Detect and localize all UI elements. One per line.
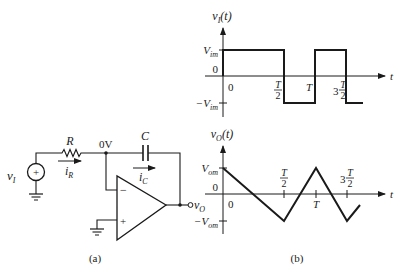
svg-text:2: 2 <box>348 178 353 189</box>
svg-text:T: T <box>281 167 288 178</box>
y-tick-pos: Vom <box>201 162 218 177</box>
svg-text:3: 3 <box>340 173 346 185</box>
capacitor <box>143 145 148 161</box>
svg-text:2: 2 <box>276 90 281 101</box>
y-tick-neg: −Vom <box>194 215 218 230</box>
resistor-label: R <box>65 134 74 148</box>
ground-icon <box>90 229 104 235</box>
x-tick-zero: 0 <box>228 198 234 210</box>
opamp-minus-sign: − <box>120 183 127 197</box>
integrator-circuit: + vI R iR 0V C iC <box>7 129 205 265</box>
x-axis-label: t <box>390 188 394 200</box>
y-tick-pos: Vim <box>203 44 218 59</box>
node-voltage-label: 0V <box>99 138 113 150</box>
current-r-label: iR <box>65 164 73 180</box>
caption-a: (a) <box>89 252 102 265</box>
y-tick-zero: 0 <box>213 181 219 193</box>
output-label: vO <box>194 198 205 214</box>
x-tick-zero: 0 <box>228 81 234 93</box>
capacitor-label: C <box>141 129 150 143</box>
x-axis-label: t <box>390 70 394 82</box>
voltage-source: + <box>28 164 45 181</box>
svg-text:T: T <box>275 79 282 90</box>
x-tick-T: T <box>306 81 313 93</box>
svg-text:3: 3 <box>333 85 339 97</box>
resistor <box>60 150 106 157</box>
x-tick-T: T <box>313 198 320 210</box>
output-node <box>178 203 182 207</box>
svg-text:T: T <box>347 167 354 178</box>
x-tick-half: T 2 <box>280 167 288 189</box>
svg-text:2: 2 <box>341 90 346 101</box>
ground-icon <box>29 194 43 200</box>
figure: + vI R iR 0V C iC <box>0 0 398 274</box>
output-y-label: vO(t) <box>211 127 233 143</box>
input-y-label: vI(t) <box>212 9 231 25</box>
input-waveform-plot: vI(t) t Vim 0 −Vim 0 T 2 T 3 T 2 <box>196 9 394 117</box>
source-plus-sign: + <box>33 166 39 178</box>
x-tick-three-half: 3 T 2 <box>333 79 347 101</box>
caption-b: (b) <box>291 252 304 265</box>
current-c-label: iC <box>139 170 148 186</box>
y-tick-neg: −Vim <box>196 97 218 112</box>
x-tick-three-half: 3 T 2 <box>340 167 354 189</box>
svg-text:2: 2 <box>282 178 287 189</box>
opamp-plus-sign: + <box>120 215 126 227</box>
source-label: vI <box>7 168 16 185</box>
output-terminal <box>188 203 193 208</box>
y-tick-zero: 0 <box>213 63 219 75</box>
x-tick-half: T 2 <box>274 79 282 101</box>
output-waveform-plot: vO(t) t Vom 0 −Vom 0 T 2 T 3 T 2 <box>194 127 394 234</box>
